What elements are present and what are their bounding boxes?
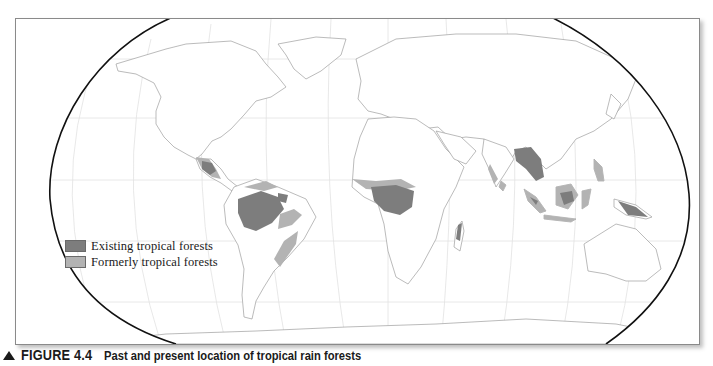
antarctica [76, 319, 699, 344]
figure-number: FIGURE 4.4 [21, 347, 92, 363]
legend-item-existing: Existing tropical forests [65, 238, 218, 254]
world-map [16, 19, 699, 344]
existing-forest-swatch [65, 240, 86, 252]
formerly-forest-swatch [65, 256, 86, 268]
figure-title: Past and present location of tropical ra… [104, 348, 361, 363]
triangle-up-icon [3, 351, 15, 360]
legend: Existing tropical forests Formerly tropi… [65, 238, 218, 270]
legend-label: Formerly tropical forests [91, 255, 218, 270]
north-america [116, 41, 286, 159]
legend-label: Existing tropical forests [91, 239, 213, 254]
australia [584, 224, 661, 281]
legend-item-formerly: Formerly tropical forests [65, 254, 218, 270]
greenland [278, 37, 346, 79]
figure-caption: FIGURE 4.4 Past and present location of … [3, 346, 403, 364]
map-frame: Existing tropical forests Formerly tropi… [15, 18, 700, 345]
